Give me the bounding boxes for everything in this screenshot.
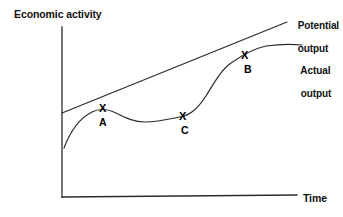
economic-activity-chart: Economic activity Time Potential output … xyxy=(0,0,343,217)
potential-output-label-line2: output xyxy=(298,43,329,54)
actual-output-label-line1: Actual xyxy=(300,65,330,76)
x-axis-line xyxy=(62,195,297,197)
point-a-marker-icon: X xyxy=(99,102,106,114)
point-b-label: B xyxy=(244,63,252,75)
x-axis-label: Time xyxy=(303,193,327,205)
point-b-marker-icon: X xyxy=(241,49,248,61)
y-axis-label: Economic activity xyxy=(14,9,102,21)
point-c-marker-icon: X xyxy=(179,110,186,122)
potential-output-label-line1: Potential xyxy=(298,20,339,31)
potential-output-line xyxy=(62,22,287,113)
point-c-label: C xyxy=(181,124,189,136)
point-a-label: A xyxy=(99,116,107,128)
actual-output-label: Actual output xyxy=(290,54,331,110)
actual-output-label-line2: output xyxy=(301,88,332,99)
